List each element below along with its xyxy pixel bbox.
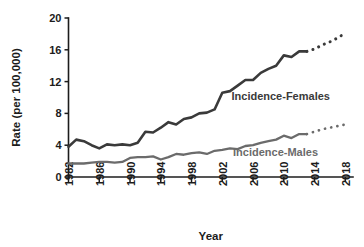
y-tick-label: 4 [55,139,62,151]
incidence-rate-line-chart: 048121620 198219861990199419982002200620… [0,0,364,247]
chart-container: 048121620 198219861990199419982002200620… [0,0,364,247]
x-axis-ticks: 1982198619901994199820022006201020142018 [63,161,352,186]
x-tick-label: 1994 [155,161,167,186]
x-tick-label: 2010 [278,162,290,186]
x-axis-title: Year [199,230,224,242]
x-tick-label: 1990 [125,162,137,186]
y-tick-label: 0 [55,171,61,183]
x-tick-label: 2006 [248,162,260,186]
x-tick-label: 2002 [217,162,229,186]
y-axis-ticks: 048121620 [49,12,68,183]
series-annotations: Incidence-FemalesIncidence-Males [232,90,330,158]
y-tick-label: 20 [49,12,61,24]
y-axis-title: Rate (per 100,000) [10,48,22,147]
series-label-incidence-males: Incidence-Males [233,146,318,158]
y-tick-label: 8 [55,107,61,119]
x-tick-label: 2014 [309,161,321,186]
series-projection-incidence-females [307,33,345,51]
x-tick-label: 1986 [94,162,106,186]
series-label-incidence-females: Incidence-Females [232,90,330,102]
y-tick-label: 12 [49,76,61,88]
x-tick-label: 2018 [340,162,352,186]
y-tick-label: 16 [49,44,61,56]
series-projection-incidence-males [307,125,345,135]
x-tick-label: 1998 [186,162,198,186]
x-tick-label: 1982 [63,162,75,186]
